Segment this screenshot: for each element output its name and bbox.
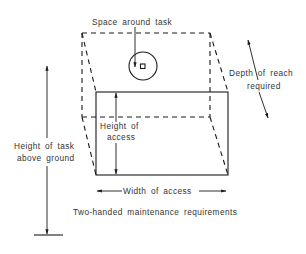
access-diagram: Space around task Depth of reach require… [0, 0, 306, 254]
height-of-task-label-line2: above ground [17, 153, 75, 163]
depth-of-reach-label-line1: Depth of reach [229, 68, 293, 78]
back-face-dashed [82, 33, 210, 117]
depth-edges-dashed [82, 33, 228, 175]
height-of-access-label-line2: access [107, 132, 135, 142]
space-around-task-label: Space around task [92, 17, 172, 27]
task-space-circle [129, 52, 157, 80]
diagram-caption: Two-handed maintenance requirements [73, 207, 237, 217]
height-of-task-label-line1: Height of task [14, 141, 75, 151]
task-point-square [141, 64, 146, 69]
depth-of-reach-label-line2: required [247, 81, 281, 91]
height-of-access-label-line1: Height of [100, 121, 139, 131]
depth-arrow-down [259, 92, 268, 118]
width-of-access-label: Width of access [123, 186, 192, 196]
